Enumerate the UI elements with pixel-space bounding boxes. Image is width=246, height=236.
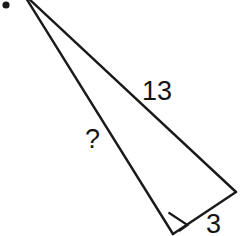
diagram-background [0,0,246,236]
hypotenuse-label: 13 [142,78,172,105]
bullet-dot-icon [2,1,9,8]
base-label: 3 [206,211,221,236]
triangle-diagram [0,0,246,236]
figure-canvas: 13 ? 3 [0,0,246,236]
unknown-side-label: ? [85,126,100,153]
